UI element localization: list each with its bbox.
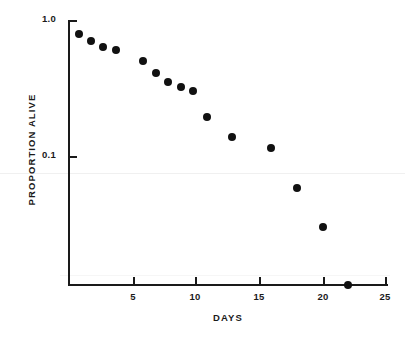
y-tick-label-1: 1.0 [42,13,56,24]
x-tick-label-10: 10 [189,291,200,302]
data-point [164,78,172,86]
x-tick-label-20: 20 [317,291,328,302]
data-point [152,69,160,77]
scan-artifact-line-lower [60,275,390,276]
x-tick-10 [195,277,197,284]
y-axis-title: PROPORTION ALIVE [26,75,37,225]
data-point [112,46,120,54]
x-axis-line [68,284,388,286]
data-point [139,57,147,65]
data-point [344,281,352,289]
data-point [267,144,275,152]
x-tick-20 [323,277,325,284]
data-point [293,184,301,192]
data-point [189,87,197,95]
x-tick-25 [385,277,387,284]
survival-curve-figure: 1.0 0.1 510152025 DAYS PROPORTION ALIVE [0,0,405,340]
y-tick-0.1 [70,156,77,158]
y-tick-label-0.1: 0.1 [42,149,56,160]
data-point [203,113,211,121]
data-point [228,133,236,141]
x-tick-5 [133,277,135,284]
data-point [75,30,83,38]
plot-area: 1.0 0.1 510152025 DAYS PROPORTION ALIVE [0,0,405,340]
x-tick-15 [259,277,261,284]
data-point [87,37,95,45]
x-tick-label-25: 25 [379,291,390,302]
y-axis-line [68,20,70,286]
x-axis-title: DAYS [213,312,243,323]
data-point [319,223,327,231]
y-tick-1.0 [70,20,77,22]
x-tick-label-5: 5 [130,291,136,302]
data-point [177,83,185,91]
data-point [99,43,107,51]
x-tick-label-15: 15 [253,291,264,302]
scan-artifact-line [0,173,405,174]
